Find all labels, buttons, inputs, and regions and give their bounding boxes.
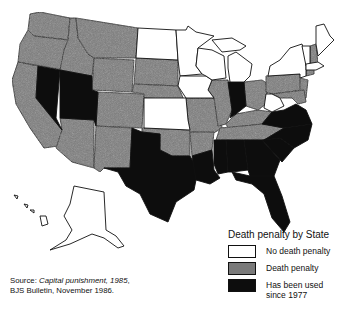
swatch-white [228,245,256,258]
state-iowa [178,76,214,98]
state-maine [316,24,334,56]
legend-label: No death penalty [266,245,330,256]
legend-label-line2: since 1977 [266,290,307,300]
state-wisconsin [196,48,226,80]
source-citation: Source: Capital punishment, 1985, BJS Bu… [10,276,130,296]
source-prefix: Source: [10,276,39,285]
state-florida [232,172,290,232]
legend-item-used-since-1977: Has been used since 1977 [228,279,342,300]
legend: Death penalty by State No death penalty … [228,229,342,304]
state-hawaii [14,195,48,226]
legend-title: Death penalty by State [228,229,342,240]
state-alaska [50,186,124,250]
state-new-mexico [94,126,132,172]
source-title: Capital punishment, 1985 [39,276,127,285]
swatch-black [228,279,256,292]
legend-item-death-penalty: Death penalty [228,262,342,275]
source-suffix: , [127,276,129,285]
swatch-gray [228,262,256,275]
state-wyoming [92,58,134,92]
state-colorado [96,92,144,128]
state-south-dakota [134,58,178,86]
state-massachusetts-ri [306,62,324,70]
state-kansas [144,98,190,130]
state-new-york [268,44,306,78]
state-utah [60,70,98,126]
legend-item-no-death-penalty: No death penalty [228,245,342,258]
legend-label-line1: Has been used [266,280,323,290]
state-north-dakota [136,28,178,60]
state-arizona [56,118,94,168]
legend-label: Death penalty [266,262,318,273]
source-line2: BJS Bulletin, November 1986. [10,286,114,295]
legend-label: Has been used since 1977 [266,279,323,300]
